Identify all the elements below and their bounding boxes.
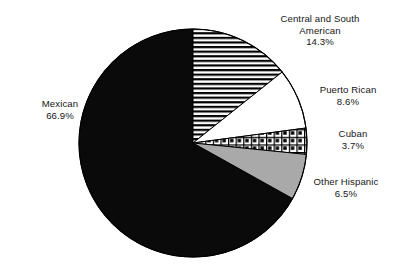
pie-label-central-and-south-american-name-line2: American (246, 25, 394, 37)
pie-label-central-and-south-american-name-line1: Central and South (246, 13, 394, 25)
pie-label-mexican-name: Mexican (12, 98, 108, 110)
pie-label-puerto-rican: Puerto Rican 8.6% (300, 84, 396, 107)
pie-label-cuban: Cuban 3.7% (310, 128, 396, 151)
pie-label-central-and-south-american: Central and South American 14.3% (246, 13, 394, 48)
pie-chart: Mexican 66.9% Central and South American… (0, 0, 399, 279)
pie-label-cuban-value: 3.7% (310, 140, 396, 152)
pie-label-mexican: Mexican 66.9% (12, 98, 108, 121)
pie-label-puerto-rican-name: Puerto Rican (300, 84, 396, 96)
pie-label-other-hispanic-name: Other Hispanic (294, 176, 398, 188)
pie-label-mexican-value: 66.9% (12, 110, 108, 122)
pie-label-central-and-south-american-value: 14.3% (246, 36, 394, 48)
pie-label-other-hispanic: Other Hispanic 6.5% (294, 176, 398, 199)
pie-label-cuban-name: Cuban (310, 128, 396, 140)
pie-label-other-hispanic-value: 6.5% (294, 188, 398, 200)
pie-label-puerto-rican-value: 8.6% (300, 96, 396, 108)
